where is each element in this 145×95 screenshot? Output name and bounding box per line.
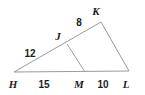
segment-kl xyxy=(101,22,129,71)
measure-label-hm: 15 xyxy=(38,79,50,90)
triangle-diagram: H K L J M 12 8 15 10 xyxy=(0,0,145,95)
vertex-label-h: H xyxy=(8,78,18,90)
segment-hl xyxy=(14,71,129,72)
vertex-label-j: J xyxy=(54,30,61,42)
geometry-figure-canvas: H K L J M 12 8 15 10 xyxy=(0,0,145,95)
vertex-label-l: L xyxy=(122,78,130,90)
measure-label-ml: 10 xyxy=(97,79,109,90)
vertex-label-m: M xyxy=(73,78,85,90)
segment-jm xyxy=(67,44,85,72)
vertex-label-k: K xyxy=(91,5,100,17)
measure-label-hj: 12 xyxy=(24,48,36,59)
measure-label-jk: 8 xyxy=(76,17,82,28)
